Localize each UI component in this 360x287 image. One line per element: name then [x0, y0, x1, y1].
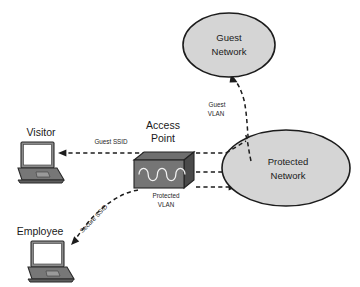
guest-network-label-line2: Network — [212, 46, 247, 57]
protected-vlan-label-line1: Protected — [153, 192, 180, 199]
employee-label: Employee — [17, 225, 64, 237]
link-guest-ssid: Guest SSID — [58, 138, 154, 157]
secure-ssid-arrowhead — [71, 236, 79, 245]
guest-vlan-label-line1: Guest — [209, 101, 226, 108]
access-point-label-line2: Point — [151, 132, 175, 144]
secure-ssid-label: Secure SSID — [78, 203, 109, 234]
protected-network-label-line1: Protected — [268, 156, 309, 167]
protected-network-shape — [222, 130, 350, 206]
protected-network-label-line2: Network — [271, 170, 306, 181]
protected-vlan-label-line2: VLAN — [158, 201, 175, 208]
guest-vlan-label-line2: VLAN — [208, 110, 225, 117]
visitor-label: Visitor — [27, 126, 56, 138]
diagram-canvas: Guest VLAN Guest Network Guest SSID Prot… — [0, 0, 360, 287]
access-point-front-face — [134, 160, 184, 188]
visitor-laptop-icon — [18, 142, 64, 183]
link-secure-ssid: Secure SSID — [71, 190, 138, 245]
guest-ssid-label: Guest SSID — [94, 138, 128, 145]
node-protected-network[interactable]: Protected Network — [222, 130, 350, 206]
network-diagram: Guest VLAN Guest Network Guest SSID Prot… — [0, 0, 360, 287]
guest-ssid-arrowhead — [58, 149, 66, 156]
employee-laptop-icon — [28, 241, 74, 282]
node-employee-laptop[interactable]: Employee — [17, 225, 74, 282]
node-visitor-laptop[interactable]: Visitor — [18, 126, 64, 183]
access-point-label-line1: Access — [146, 119, 180, 131]
guest-network-label-line1: Guest — [216, 32, 242, 43]
node-access-point[interactable]: Access Point — [134, 119, 194, 188]
node-guest-network[interactable]: Guest Network — [183, 13, 275, 77]
